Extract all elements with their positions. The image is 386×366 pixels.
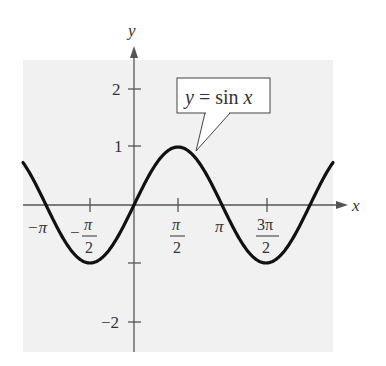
y-axis-arrow-icon xyxy=(130,46,138,58)
sine-chart: y x 2 1 −2 −π − π 2 π 2 π 3π 2 xyxy=(0,0,386,366)
svg-text:−: − xyxy=(70,223,80,242)
y-tick-label-1: 1 xyxy=(114,137,123,156)
svg-text:π: π xyxy=(84,216,93,233)
x-axis-arrow-icon xyxy=(336,201,348,209)
x-axis-label: x xyxy=(351,196,360,215)
y-tick-label-2: 2 xyxy=(112,80,121,99)
x-tick-label-negpi: −π xyxy=(27,218,47,237)
svg-text:2: 2 xyxy=(173,239,181,256)
svg-text:3π: 3π xyxy=(257,216,273,233)
svg-text:2: 2 xyxy=(85,239,93,256)
callout-label: y = sin x xyxy=(183,86,253,109)
y-tick-label-neg2: −2 xyxy=(101,313,119,332)
svg-text:π: π xyxy=(172,216,181,233)
svg-text:2: 2 xyxy=(262,239,270,256)
x-tick-label-pi: π xyxy=(215,217,224,236)
y-axis-label: y xyxy=(126,21,136,40)
